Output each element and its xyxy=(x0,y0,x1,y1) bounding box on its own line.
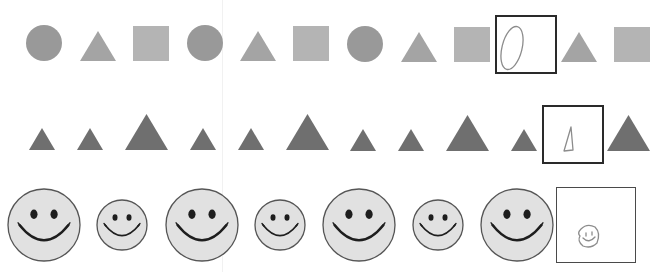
large-triangle-shape xyxy=(125,114,168,150)
small-smiley-icon xyxy=(413,200,463,250)
small-triangle-shape xyxy=(511,129,537,151)
large-triangle-shape xyxy=(607,115,650,151)
smiley-right-eye xyxy=(285,214,290,221)
smiley-right-eye xyxy=(50,210,57,219)
large-smiley-icon xyxy=(481,189,553,261)
smiley-left-eye xyxy=(188,210,195,219)
smiley-right-eye xyxy=(365,210,372,219)
small-triangle-shape xyxy=(190,128,216,150)
large-triangle-shape xyxy=(286,114,329,150)
small-triangle-shape xyxy=(398,129,424,151)
small-smiley-icon xyxy=(97,200,147,250)
small-triangle-shape xyxy=(238,128,264,150)
triangle-shape xyxy=(561,32,597,62)
large-triangle-shape xyxy=(446,115,489,151)
smiley-left-eye xyxy=(271,214,276,221)
circle-shape xyxy=(347,26,383,62)
triangle-shape xyxy=(401,32,437,62)
smiley-right-eye xyxy=(443,214,448,221)
triangle-shape xyxy=(80,31,116,61)
large-smiley-icon xyxy=(8,189,80,261)
circle-shape xyxy=(26,25,62,61)
smiley-left-eye xyxy=(429,214,434,221)
smiley-left-eye xyxy=(30,210,37,219)
smiley-left-eye xyxy=(113,214,118,221)
large-smiley-icon xyxy=(323,189,395,261)
smiley-right-eye xyxy=(523,210,530,219)
smiley-left-eye xyxy=(345,210,352,219)
triangle-shape xyxy=(240,31,276,61)
large-smiley-icon xyxy=(166,189,238,261)
answer-box[interactable] xyxy=(495,15,557,74)
smiley-left-eye xyxy=(503,210,510,219)
pattern-worksheet xyxy=(0,0,664,272)
smiley-right-eye xyxy=(127,214,132,221)
circle-shape xyxy=(187,25,223,61)
square-shape xyxy=(293,26,329,61)
square-shape xyxy=(454,27,490,62)
small-smiley-icon xyxy=(255,200,305,250)
square-shape xyxy=(133,26,169,61)
small-triangle-shape xyxy=(77,128,103,150)
smiley-right-eye xyxy=(208,210,215,219)
small-triangle-shape xyxy=(350,129,376,151)
answer-box[interactable] xyxy=(542,105,604,164)
small-triangle-shape xyxy=(29,128,55,150)
answer-box[interactable] xyxy=(556,187,636,263)
square-shape xyxy=(614,27,650,62)
